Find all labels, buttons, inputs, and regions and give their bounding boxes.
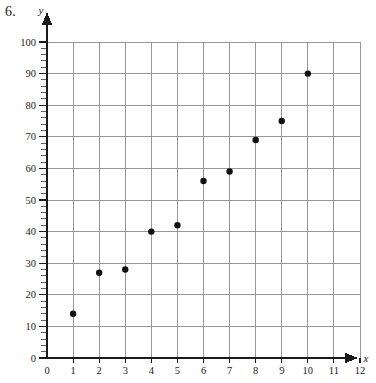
y-axis-tick-label: 0 xyxy=(31,353,36,364)
y-axis-tick-label: 70 xyxy=(26,131,37,142)
scatter-plot-figure: 6. 0102030405060708090100 01234567891011… xyxy=(0,0,376,383)
x-axis-major-ticks xyxy=(73,358,360,363)
x-axis-tick-label: 12 xyxy=(355,365,366,376)
data-point xyxy=(200,178,206,184)
x-axis-tick-label: 1 xyxy=(70,365,75,376)
x-axis-arrowhead xyxy=(346,354,356,362)
data-point xyxy=(305,70,311,76)
data-point xyxy=(96,269,102,275)
data-point xyxy=(148,228,154,234)
y-axis-tick-label: 30 xyxy=(26,258,37,269)
y-axis-tick-label: 90 xyxy=(26,68,37,79)
y-axis-tick-label: 10 xyxy=(26,321,37,332)
x-axis-tick-label: 6 xyxy=(201,365,206,376)
y-axis-tick-labels: 0102030405060708090100 xyxy=(20,37,36,364)
data-point xyxy=(279,118,285,124)
data-point xyxy=(226,168,232,174)
x-axis-tick-label: 8 xyxy=(253,365,258,376)
x-axis-tick-label: 9 xyxy=(279,365,284,376)
y-axis-tick-label: 50 xyxy=(26,195,37,206)
y-axis-tick-label: 80 xyxy=(26,100,37,111)
y-axis-tick-label: 40 xyxy=(26,226,37,237)
x-axis-tick-label: 0 xyxy=(44,365,49,376)
data-points-group xyxy=(70,70,311,317)
y-axis-tick-label: 60 xyxy=(26,163,37,174)
y-axis-tick-label: 100 xyxy=(20,37,36,48)
x-axis-tick-label: 7 xyxy=(227,365,232,376)
data-point xyxy=(70,311,76,317)
y-axis-major-ticks xyxy=(39,42,47,358)
y-axis-arrowhead xyxy=(43,14,51,24)
x-axis-tick-label: 11 xyxy=(329,365,339,376)
x-axis-title: x xyxy=(363,352,369,364)
x-axis-tick-label: 2 xyxy=(97,365,102,376)
y-axis-tick-label: 20 xyxy=(26,289,37,300)
x-axis-tick-label: 5 xyxy=(175,365,180,376)
x-axis-tick-labels: 0123456789101112 xyxy=(44,365,365,376)
data-point xyxy=(122,266,128,272)
data-point xyxy=(252,137,258,143)
data-point xyxy=(174,222,180,228)
x-axis-tick-label: 10 xyxy=(303,365,314,376)
plot-canvas: 0102030405060708090100 0123456789101112 … xyxy=(0,0,376,383)
x-axis-tick-label: 4 xyxy=(149,365,155,376)
x-axis-tick-label: 3 xyxy=(123,365,128,376)
y-axis-title: y xyxy=(38,4,44,16)
